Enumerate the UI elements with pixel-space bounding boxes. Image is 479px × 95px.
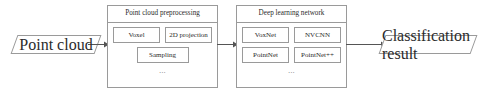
stage-network-header-label: Deep learning network [259, 10, 325, 17]
item-2d-projection[interactable]: 2D projection [165, 27, 212, 43]
stage-network: Deep learning network VoxNet NVCNN Point… [236, 5, 347, 88]
item-pointnet-label: PointNet [253, 52, 278, 59]
item-pointnet[interactable]: PointNet [242, 47, 289, 63]
item-nvcnn[interactable]: NVCNN [294, 27, 341, 43]
preprocessing-ellipsis: ... [113, 68, 212, 75]
stage-network-header: Deep learning network [237, 6, 346, 23]
item-pointnet-plus-plus-label: PointNet++ [301, 52, 334, 59]
arrow-preprocessing-to-network [217, 40, 238, 49]
item-sampling-label: Sampling [149, 52, 176, 59]
output-terminal-label: Classification result [382, 27, 474, 63]
network-row-2: PointNet PointNet++ [242, 47, 341, 63]
stage-preprocessing-header-label: Point cloud preprocessing [125, 10, 200, 17]
network-row-1: VoxNet NVCNN [242, 27, 341, 43]
stage-preprocessing-header: Point cloud preprocessing [108, 6, 217, 23]
item-voxel[interactable]: Voxel [113, 27, 160, 43]
stage-preprocessing-body: Voxel 2D projection Sampling ... [108, 23, 217, 87]
item-voxnet[interactable]: VoxNet [242, 27, 289, 43]
item-voxel-label: Voxel [128, 32, 144, 39]
item-voxnet-label: VoxNet [255, 32, 276, 39]
stage-network-body: VoxNet NVCNN PointNet PointNet++ ... [237, 23, 346, 87]
stage-preprocessing: Point cloud preprocessing Voxel 2D proje… [107, 5, 218, 88]
preprocessing-row-2: Sampling [113, 47, 212, 63]
flowchart-diagram: Point cloud Point cloud preprocessing Vo… [0, 0, 479, 95]
item-2d-projection-label: 2D projection [169, 32, 208, 39]
item-nvcnn-label: NVCNN [305, 32, 330, 39]
network-ellipsis: ... [242, 68, 341, 75]
item-pointnet-plus-plus[interactable]: PointNet++ [294, 47, 341, 63]
item-sampling[interactable]: Sampling [137, 47, 189, 63]
output-terminal: Classification result [382, 35, 474, 54]
input-terminal-label: Point cloud [19, 36, 92, 54]
input-terminal: Point cloud [14, 35, 98, 54]
preprocessing-row-1: Voxel 2D projection [113, 27, 212, 43]
